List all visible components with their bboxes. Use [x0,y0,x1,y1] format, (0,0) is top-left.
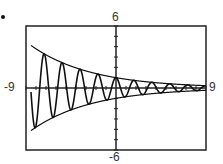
plot-area [0,0,223,164]
damped-oscillation-curve [31,54,206,128]
